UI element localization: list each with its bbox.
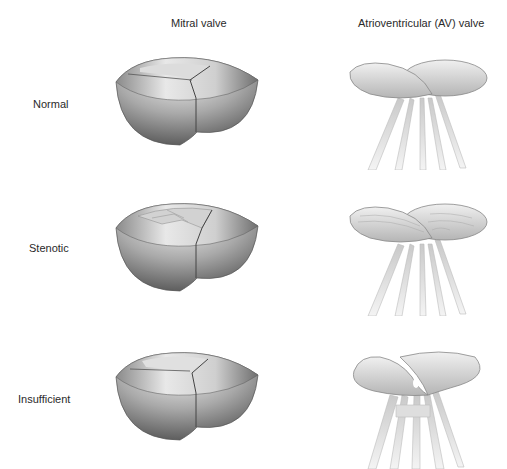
column-title-av: Atrioventricular (AV) valve xyxy=(358,17,484,29)
row-label-insufficient: Insufficient xyxy=(18,393,70,405)
av-valve-insufficient xyxy=(340,345,490,469)
av-valve-normal xyxy=(340,50,490,170)
mitral-valve-normal xyxy=(112,50,262,150)
av-valve-stenotic xyxy=(340,196,490,316)
mitral-valve-stenotic xyxy=(112,196,262,296)
column-title-mitral: Mitral valve xyxy=(171,17,227,29)
mitral-valve-insufficient xyxy=(112,345,262,445)
row-label-stenotic: Stenotic xyxy=(29,242,69,254)
row-label-normal: Normal xyxy=(33,98,68,110)
